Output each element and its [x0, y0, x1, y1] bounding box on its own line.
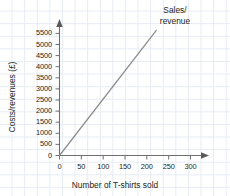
y-tick-label: 5500 — [24, 30, 52, 37]
x-axis-title: Number of T-shirts sold — [0, 180, 230, 190]
y-tick-label: 0 — [24, 152, 52, 159]
y-tick-label: 3000 — [24, 85, 52, 92]
y-axis-arrowhead — [56, 19, 62, 27]
series-line-sales-revenue — [60, 30, 157, 155]
y-tick-label: 2000 — [24, 107, 52, 114]
y-tick-label: 1000 — [24, 130, 52, 137]
y-tick-marks — [56, 33, 60, 155]
y-tick-label: 1500 — [24, 118, 52, 125]
x-axis-arrowhead — [201, 152, 209, 158]
series-annotation-sales-revenue: Sales/ revenue — [139, 5, 211, 26]
y-tick-label: 5000 — [24, 41, 52, 48]
y-tick-label: 4500 — [24, 52, 52, 59]
series-annotation-line-2: revenue — [139, 16, 211, 27]
x-tick-label: 0 — [57, 163, 61, 170]
x-tick-label: 250 — [163, 163, 175, 170]
x-tick-label: 100 — [97, 163, 109, 170]
x-tick-label: 50 — [77, 163, 85, 170]
y-tick-label: 500 — [24, 141, 52, 148]
x-tick-label: 300 — [184, 163, 196, 170]
series-annotation-line-1: Sales/ — [139, 5, 211, 16]
y-tick-label: 2500 — [24, 96, 52, 103]
chart-container: 0 500 1000 1500 2000 2500 3000 3500 4000… — [0, 0, 230, 196]
x-tick-label: 150 — [119, 163, 131, 170]
y-axis-title: Costs/revenues (£) — [7, 32, 17, 162]
y-tick-label: 4000 — [24, 63, 52, 70]
x-tick-marks — [60, 156, 191, 160]
y-tick-label: 3500 — [24, 74, 52, 81]
x-tick-label: 200 — [141, 163, 153, 170]
